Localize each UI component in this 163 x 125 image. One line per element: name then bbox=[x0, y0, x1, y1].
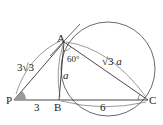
label-AC-radicand: 3 bbox=[108, 55, 114, 67]
label-BC: 6 bbox=[100, 102, 106, 113]
label-angle-A: 60° bbox=[67, 55, 80, 64]
label-PA: 3√3 bbox=[17, 62, 34, 73]
angle-A-arc bbox=[63, 47, 71, 51]
label-AB: a bbox=[63, 70, 69, 81]
angle-P-marker bbox=[14, 91, 26, 100]
label-PB: 3 bbox=[34, 102, 40, 113]
geometry-diagram: A P B C 3√3 3 6 a 60° √3 a bbox=[0, 0, 163, 125]
point-C-label: C bbox=[149, 95, 156, 106]
segment-AC bbox=[64, 42, 148, 100]
label-AC-var: a bbox=[116, 55, 122, 67]
circumcircle bbox=[61, 22, 155, 116]
point-A-label: A bbox=[57, 33, 65, 44]
angle-C-arc bbox=[138, 94, 140, 100]
label-AC: √3 a bbox=[102, 56, 122, 67]
dim-arc-AC bbox=[66, 42, 146, 97]
point-B-label: B bbox=[54, 102, 61, 113]
point-P-label: P bbox=[6, 95, 12, 106]
